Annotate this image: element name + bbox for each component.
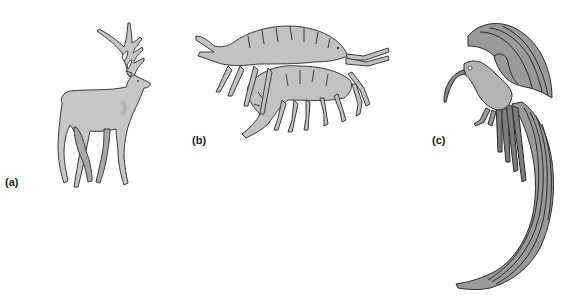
panel-c-bird [440, 12, 575, 299]
panel-a-label: (a) [5, 176, 18, 188]
deer-illustration [30, 15, 160, 190]
amphipod-illustration [188, 14, 388, 139]
panel-a-deer [30, 15, 160, 190]
bird-bill [444, 70, 466, 102]
panel-c-label: (c) [432, 134, 445, 146]
amphipod-upper-body [196, 26, 348, 66]
amphipod-lower-body [242, 66, 352, 138]
panel-b-label: (b) [192, 134, 206, 146]
panel-b-amphipods [188, 14, 388, 139]
bird-of-paradise-illustration [440, 12, 575, 299]
